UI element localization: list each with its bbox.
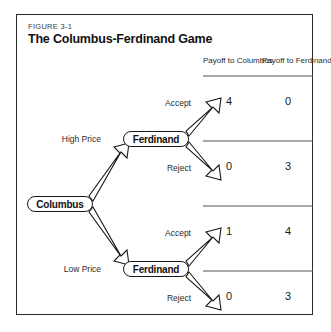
arrow-low-price (89, 207, 129, 265)
payoff-columbus-row-4: 0 (216, 290, 242, 302)
payoff-ferdinand-row-1: 0 (275, 95, 301, 107)
payoff-columbus-row-2: 0 (216, 160, 242, 172)
branch-label-accept-high: Accept (147, 98, 191, 108)
payoff-columbus-row-1: 4 (216, 95, 242, 107)
branch-label-reject-high: Reject (147, 163, 191, 173)
payoff-ferdinand-row-4: 3 (275, 290, 301, 302)
payoff-columbus-row-3: 1 (216, 225, 242, 237)
branch-label-low-price: Low Price (39, 264, 101, 274)
payoff-ferdinand-row-3: 4 (275, 225, 301, 237)
node-ferdinand-low-price[interactable]: Ferdinand (123, 261, 189, 277)
figure-panel: FIGURE 3-1 The Columbus-Ferdinand Game P… (16, 14, 313, 315)
arrow-high-price (89, 143, 129, 201)
node-columbus[interactable]: Columbus (27, 196, 93, 212)
node-ferdinand-high-price[interactable]: Ferdinand (123, 131, 189, 147)
payoff-ferdinand-row-2: 3 (275, 160, 301, 172)
branch-label-reject-low: Reject (147, 293, 191, 303)
branch-label-high-price: High Price (39, 134, 101, 144)
branch-label-accept-low: Accept (147, 228, 191, 238)
